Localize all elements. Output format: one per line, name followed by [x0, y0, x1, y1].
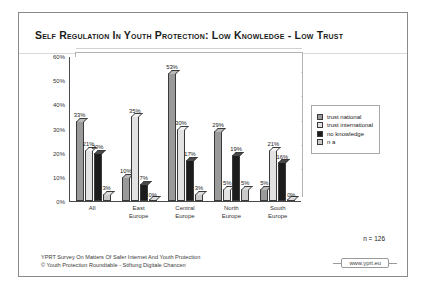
- y-axis-tick: 40%: [53, 102, 65, 108]
- x-axis-label-line: North: [209, 204, 253, 212]
- footer-line-1: YPRT Survey On Matters Of Safer Internet…: [41, 254, 200, 262]
- x-axis-label: CentralEurope: [163, 204, 207, 226]
- bar-value-label: 53%: [166, 65, 178, 71]
- legend-label: trust national: [327, 114, 361, 120]
- bar-value-label: 35%: [129, 109, 141, 115]
- bar: 21%: [85, 150, 93, 201]
- chart-plot-area: 0%10%20%30%40%50%60% 33%21%20%3%10%35%7%…: [43, 57, 305, 217]
- bar: 33%: [76, 121, 84, 201]
- bar: 0%: [287, 199, 295, 201]
- x-axis-label-line: Europe: [256, 212, 300, 220]
- bar-group: 33%21%20%3%: [76, 56, 111, 201]
- y-axis-tick: 60%: [53, 54, 65, 60]
- legend-item: trust national: [317, 114, 373, 120]
- footer-credits: YPRT Survey On Matters Of Safer Internet…: [41, 254, 200, 269]
- bar-value-label: 30%: [175, 121, 187, 127]
- x-axis-label-line: East: [117, 204, 161, 212]
- y-axis-tick: 0%: [56, 199, 65, 205]
- bar: 5%: [260, 189, 268, 201]
- y-axis-tick: 30%: [53, 127, 65, 133]
- x-axis-label-line: Europe: [209, 212, 253, 220]
- legend-swatch: [317, 122, 323, 128]
- bar-value-label: 19%: [230, 147, 242, 153]
- slide-frame: Self Regulation In Youth Protection: Low…: [18, 12, 408, 277]
- bar-value-label: 29%: [212, 123, 224, 129]
- x-axis-label-line: Europe: [163, 212, 207, 220]
- legend-swatch: [317, 139, 323, 145]
- bar: 53%: [168, 73, 176, 201]
- legend-item: no knowledge: [317, 131, 373, 137]
- bar-value-label: 33%: [74, 113, 86, 119]
- x-axis-label-line: Europe: [117, 212, 161, 220]
- bar-value-label: 5%: [260, 181, 268, 187]
- page-title: Self Regulation In Youth Protection: Low…: [35, 29, 393, 41]
- x-axis-label-line: Central: [163, 204, 207, 212]
- bar: 7%: [140, 184, 148, 201]
- y-axis-tick: 20%: [53, 151, 65, 157]
- bar-value-label: 17%: [184, 152, 196, 158]
- bar: 30%: [177, 129, 185, 202]
- bar: 3%: [103, 194, 111, 201]
- bar-value-label: 7%: [140, 176, 148, 182]
- bar: 10%: [122, 177, 130, 201]
- bar-value-label: 20%: [92, 145, 104, 151]
- bar-group: 29%5%19%5%: [214, 56, 249, 201]
- y-axis-tick: 50%: [53, 78, 65, 84]
- y-axis: 0%10%20%30%40%50%60%: [43, 57, 67, 202]
- bar-value-label: 5%: [241, 181, 249, 187]
- legend-label: trust international: [327, 122, 373, 128]
- x-axis-label-line: South: [256, 204, 300, 212]
- y-axis-tick: 10%: [53, 175, 65, 181]
- bar-value-label: 3%: [102, 186, 110, 192]
- bar-group: 10%35%7%0%: [122, 56, 157, 201]
- bar: 5%: [241, 189, 249, 201]
- bar: 20%: [94, 153, 102, 201]
- x-axis-label: SouthEurope: [256, 204, 300, 226]
- x-axis-labels: AllEastEuropeCentralEuropeNorthEuropeSou…: [69, 204, 301, 226]
- bar: 29%: [214, 131, 222, 201]
- gridline: [76, 48, 302, 49]
- bar: 35%: [131, 116, 139, 201]
- x-axis-label: All: [70, 204, 114, 226]
- legend-swatch: [317, 114, 323, 120]
- bar-groups: 33%21%20%3%10%35%7%0%53%30%17%3%29%5%19%…: [70, 56, 301, 201]
- sample-size-note: n = 126: [363, 235, 385, 242]
- bar: 16%: [278, 162, 286, 201]
- legend-item: trust international: [317, 122, 373, 128]
- bar-value-label: 5%: [223, 181, 231, 187]
- legend-item: n a: [317, 139, 373, 145]
- x-axis-label: NorthEurope: [209, 204, 253, 226]
- chart-legend: trust nationaltrust internationalno know…: [311, 105, 380, 154]
- bar-value-label: 3%: [195, 186, 203, 192]
- bar-group: 53%30%17%3%: [168, 56, 203, 201]
- legend-label: n a: [327, 139, 335, 145]
- bar-value-label: 0%: [287, 193, 295, 199]
- bar: 3%: [195, 194, 203, 201]
- bar: 19%: [232, 155, 240, 201]
- legend-label: no knowledge: [327, 131, 364, 137]
- chart-plot-box: 33%21%20%3%10%35%7%0%53%30%17%3%29%5%19%…: [69, 57, 301, 202]
- bar-group: 5%21%16%0%: [260, 56, 295, 201]
- legend-swatch: [317, 131, 323, 137]
- x-axis-label: EastEurope: [117, 204, 161, 226]
- bar-value-label: 21%: [268, 142, 280, 148]
- bar-value-label: 0%: [149, 193, 157, 199]
- url-badge: www.yprt.eu: [341, 258, 389, 268]
- x-axis-label-line: All: [70, 204, 114, 212]
- bar: 5%: [223, 189, 231, 201]
- footer-line-2: © Youth Protection Roundtable - Stiftung…: [41, 262, 200, 270]
- bar: 0%: [149, 199, 157, 201]
- bar-value-label: 16%: [277, 155, 289, 161]
- bar: 17%: [186, 160, 194, 201]
